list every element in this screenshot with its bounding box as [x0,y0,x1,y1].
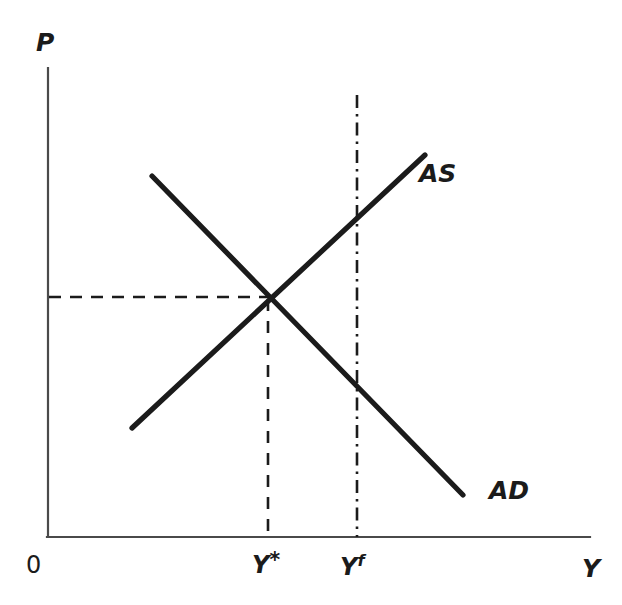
tick-label-y-full: Yf [340,553,365,579]
ad-curve [152,176,463,495]
tick-label-y-star-base: Y [252,551,269,579]
as-curve [132,155,425,428]
x-axis-label: Y [582,556,600,581]
as-curve-label: AS [419,161,456,186]
tick-label-y-star-superscript: * [269,548,280,572]
y-axis-label: P [36,30,54,55]
plot-canvas [0,0,622,605]
ad-curve-label: AD [489,478,529,503]
origin-label: 0 [26,553,41,577]
tick-label-y-full-superscript: f [357,551,364,570]
as-ad-diagram: P Y 0 Y* Yf AS AD [0,0,622,605]
tick-label-y-full-base: Y [340,553,357,581]
tick-label-y-star: Y* [252,553,280,577]
